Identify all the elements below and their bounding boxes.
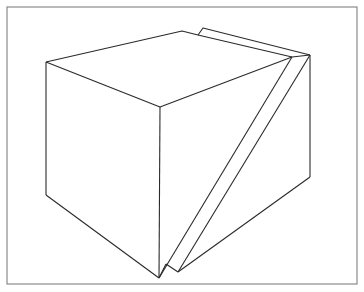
cube-top-front-edge [46,62,160,107]
cube-top-face [46,31,198,62]
cube-bottom-left-edge [46,195,159,278]
slab-top-corner [292,55,310,57]
cube-right-diagonal-edge [159,57,292,278]
slab-front-edge [178,55,310,272]
cube-front-vertical-edge [159,107,160,278]
slab-top-edge [198,28,310,55]
figure-frame [7,7,357,284]
slab-bottom-notch [166,264,178,272]
cube [46,31,292,278]
cube-slab-drawing [0,0,364,292]
slab-bottom-edge [178,177,310,272]
cube-top-right-edge [160,57,292,107]
slab-bottom-thickness [159,264,166,278]
figure-canvas: Line drawing of a cube with a thin slab … [0,0,364,292]
